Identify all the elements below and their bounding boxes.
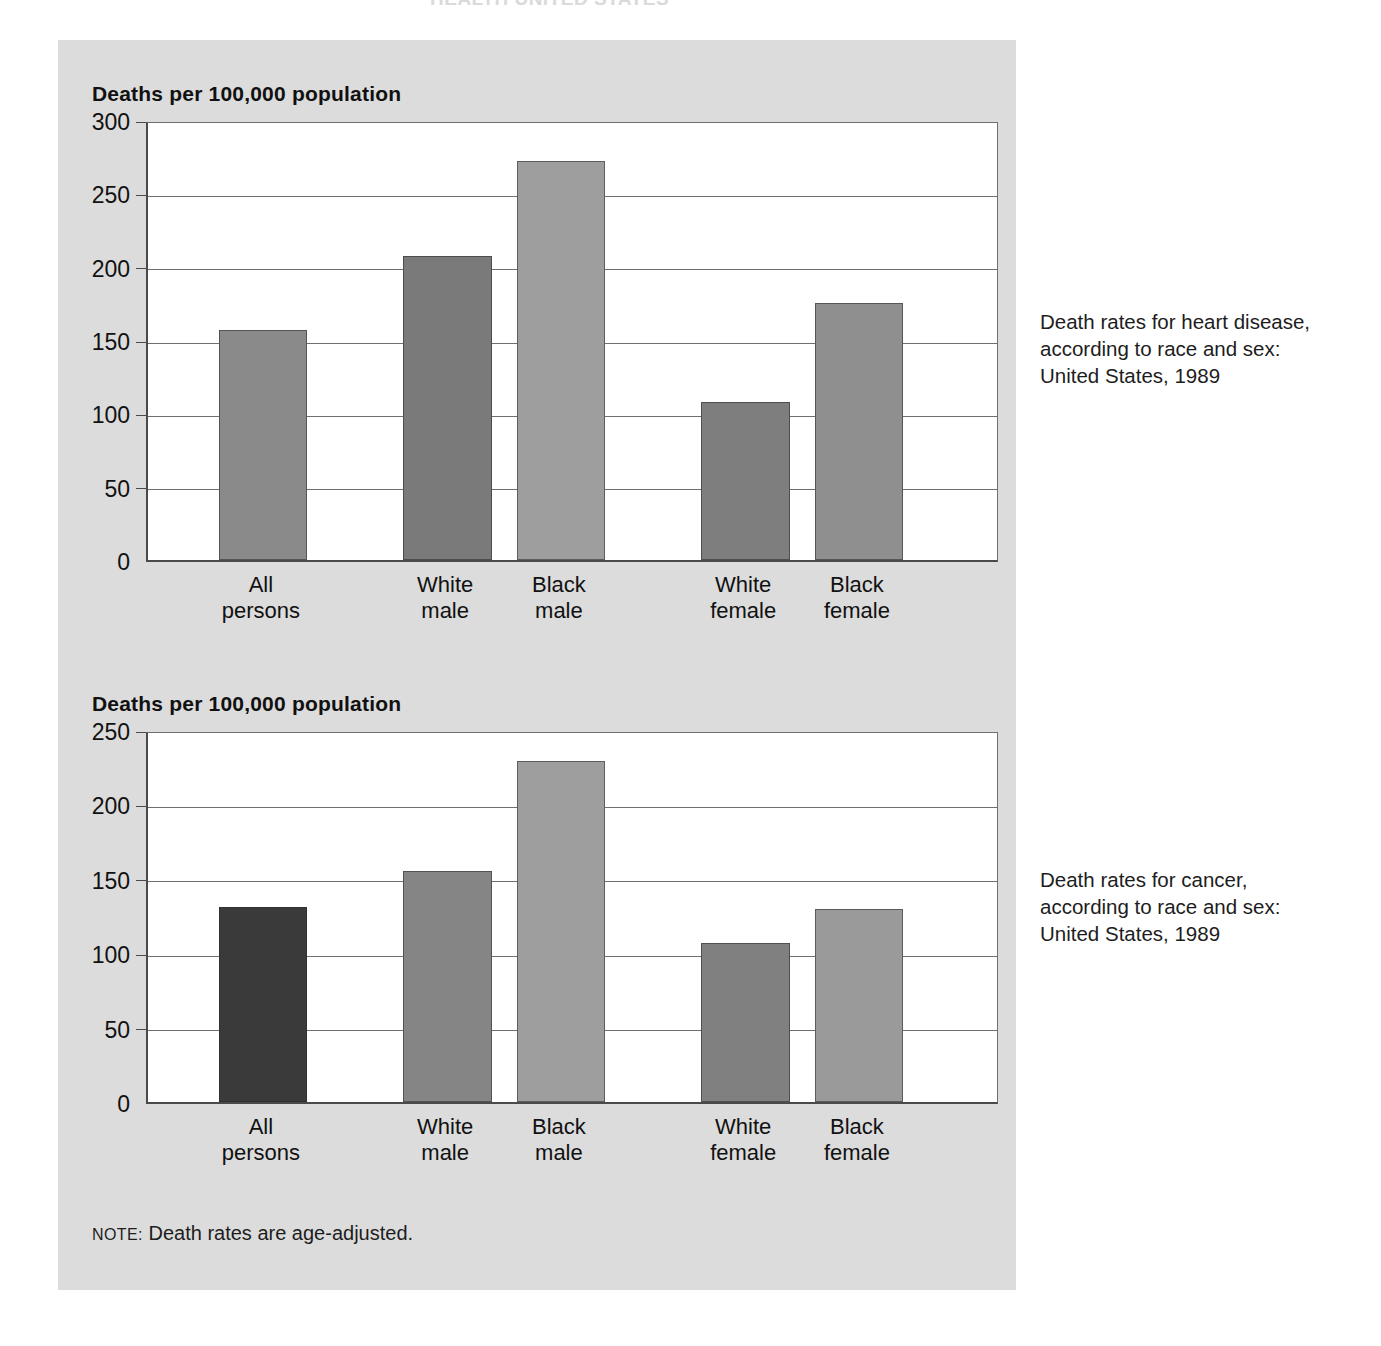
y-axis-tick: [136, 806, 146, 807]
y-axis-label: 150: [60, 867, 130, 894]
y-axis-tick: [136, 955, 146, 956]
figure-panel: Deaths per 100,000 population 0501001502…: [58, 40, 1016, 1290]
bar-black-female: [815, 303, 904, 560]
y-axis-label: 250: [60, 719, 130, 746]
x-axis-label: Black female: [772, 572, 942, 624]
bar-all-persons: [219, 907, 308, 1102]
bar-white-male: [403, 871, 492, 1102]
y-axis-tick: [136, 122, 146, 123]
bar-white-female: [701, 402, 790, 560]
y-axis-label: 50: [60, 1016, 130, 1043]
x-axis-label: Black female: [772, 1114, 942, 1166]
bar-black-male: [517, 761, 606, 1102]
bar-black-male: [517, 161, 606, 560]
y-axis-tick: [136, 488, 146, 489]
x-axis-label: Black male: [474, 1114, 644, 1166]
x-axis-label: Black male: [474, 572, 644, 624]
note-keyword: NOTE:: [92, 1226, 143, 1243]
y-axis-tick: [136, 342, 146, 343]
y-axis-label: 200: [60, 793, 130, 820]
y-axis-label: 0: [60, 549, 130, 576]
chart-axis-title: Deaths per 100,000 population: [92, 692, 401, 716]
y-axis-tick: [136, 268, 146, 269]
y-axis-tick: [136, 732, 146, 733]
bar-all-persons: [219, 330, 308, 560]
y-axis-tick: [136, 1029, 146, 1030]
y-axis-label: 150: [60, 329, 130, 356]
clipped-header-strip: HEALTH UNITED STATES: [0, 0, 1381, 16]
caption-heart-disease: Death rates for heart disease, according…: [1040, 308, 1340, 389]
y-axis-label: 300: [60, 109, 130, 136]
y-axis-label: 50: [60, 475, 130, 502]
note-text: Death rates are age-adjusted.: [148, 1222, 413, 1244]
y-axis-tick: [136, 415, 146, 416]
y-axis-label: 0: [60, 1091, 130, 1118]
figure-note: NOTE: Death rates are age-adjusted.: [92, 1222, 413, 1245]
chart-axis-title: Deaths per 100,000 population: [92, 82, 401, 106]
y-axis-tick: [136, 195, 146, 196]
caption-cancer: Death rates for cancer, according to rac…: [1040, 866, 1340, 947]
plot-area: [146, 732, 998, 1104]
bar-black-female: [815, 909, 904, 1102]
bar-white-female: [701, 943, 790, 1102]
y-axis-label: 200: [60, 255, 130, 282]
y-axis-label: 100: [60, 402, 130, 429]
y-axis-label: 100: [60, 942, 130, 969]
x-axis-label: All persons: [176, 572, 346, 624]
y-axis-tick: [136, 880, 146, 881]
bar-white-male: [403, 256, 492, 560]
clipped-header-text: HEALTH UNITED STATES: [430, 0, 669, 10]
y-axis-label: 250: [60, 182, 130, 209]
plot-area: [146, 122, 998, 562]
x-axis-label: All persons: [176, 1114, 346, 1166]
